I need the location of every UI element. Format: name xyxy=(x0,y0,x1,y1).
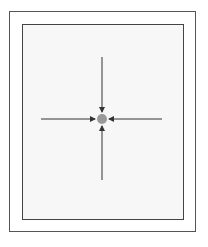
center-dot xyxy=(97,114,107,124)
convergence-diagram xyxy=(0,0,208,247)
